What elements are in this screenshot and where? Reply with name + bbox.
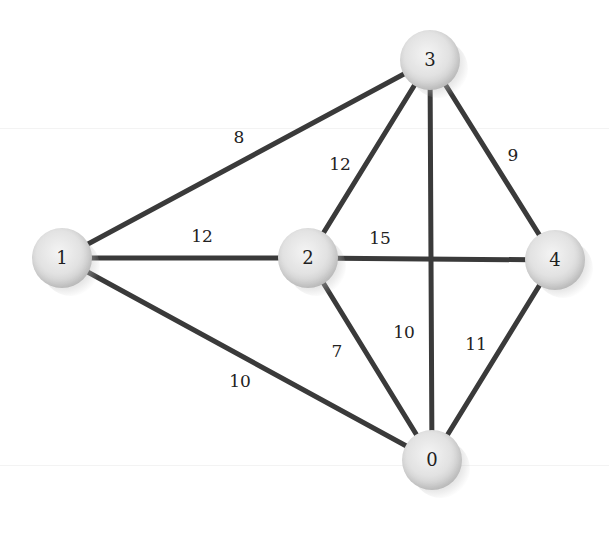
edge-1-0 [62,258,432,460]
edge-weight-label-1-3: 8 [234,127,245,147]
edge-weight-label-3-0: 10 [393,322,415,342]
node-0: 0 [402,430,462,490]
edge-3-0 [430,60,432,460]
edge-weight-label-2-3: 12 [329,154,351,174]
node-3: 3 [400,30,460,90]
node-2: 2 [278,228,338,288]
node-1: 1 [32,228,92,288]
graph-diagram: 812101215710911 01234 [0,0,609,534]
edge-weight-label-1-0: 10 [229,371,251,391]
edge-weight-label-3-4: 9 [508,145,519,165]
edge-weight-label-1-2: 12 [191,226,213,246]
edge-weight-label-4-0: 11 [465,334,487,354]
node-4: 4 [525,230,585,290]
node-label: 2 [278,228,338,288]
node-label: 0 [402,430,462,490]
edge-weight-label-2-0: 7 [332,341,343,361]
edge-weight-label-2-4: 15 [369,228,391,248]
node-label: 4 [525,230,585,290]
node-label: 1 [32,228,92,288]
node-label: 3 [400,30,460,90]
